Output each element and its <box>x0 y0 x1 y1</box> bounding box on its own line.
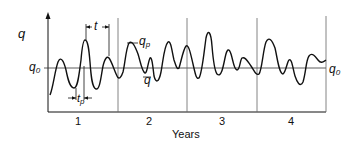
interval-arrowhead-left-icon <box>86 25 90 29</box>
year-label-3: 3 <box>219 116 225 127</box>
year-label-1: 1 <box>75 116 81 127</box>
interval-arrowhead-right-icon <box>105 25 109 29</box>
chart-canvas <box>0 0 358 145</box>
x-axis-label: Years <box>172 129 200 140</box>
duration-label-sub: p <box>80 97 84 106</box>
trough-label: q <box>144 74 151 86</box>
duration-arrowhead-left-icon <box>72 96 76 100</box>
peak-label: qp <box>139 35 150 49</box>
baseline-label-right-main: q <box>329 62 336 76</box>
baseline-label-right: q0 <box>329 63 340 77</box>
baseline-label-left-sub: 0 <box>36 66 40 75</box>
baseline-label-right-sub: 0 <box>336 68 340 77</box>
duration-label: tp <box>77 93 85 106</box>
streamflow-diagram: q q0 q0 qp q t tp 1 2 3 4 Years <box>0 0 358 145</box>
baseline-label-left-main: q <box>29 60 36 74</box>
flow-curve <box>50 32 326 95</box>
peak-label-main: q <box>139 34 146 48</box>
baseline-label-left: q0 <box>29 61 40 75</box>
y-axis-arrow-icon <box>46 12 51 19</box>
y-axis-label: q <box>18 27 25 40</box>
peak-label-sub: p <box>146 40 150 49</box>
year-label-2: 2 <box>146 116 152 127</box>
year-label-4: 4 <box>288 116 294 127</box>
interval-label: t <box>94 20 97 32</box>
